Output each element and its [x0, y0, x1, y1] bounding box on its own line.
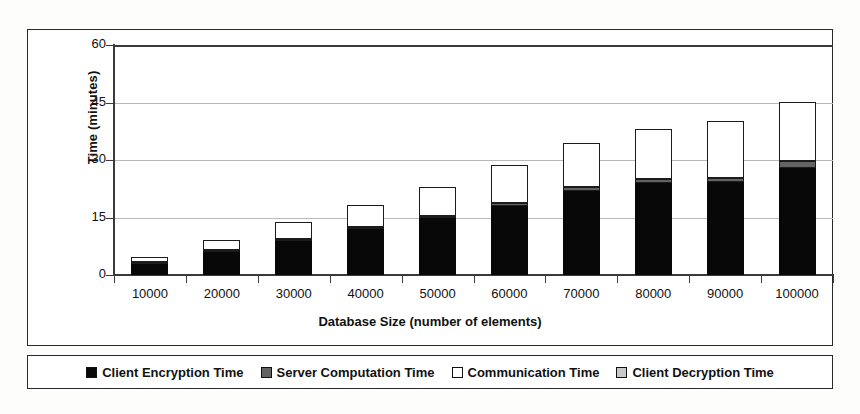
y-tick-mark-60	[106, 45, 113, 46]
legend-item-client-decryption-time[interactable]: Client Decryption Time	[616, 365, 773, 380]
bar-group-90000[interactable]	[707, 121, 744, 275]
x-axis-tick-labels: 1000020000300004000050000600007000080000…	[114, 286, 833, 306]
bar-segment-client-encryption-time-30000	[275, 241, 312, 275]
gray-square-icon	[261, 367, 272, 378]
x-tick-mark-8	[689, 276, 690, 283]
y-tick-label-15: 15	[62, 209, 106, 224]
chart-legend: Client Encryption TimeServer Computation…	[27, 355, 833, 389]
white-square-icon	[452, 367, 463, 378]
bar-segment-client-encryption-time-60000	[491, 206, 528, 275]
x-tick-label-10000: 10000	[112, 286, 188, 301]
y-tick-mark-30	[106, 160, 113, 161]
y-tick-label-60: 60	[62, 36, 106, 51]
bar-segment-client-encryption-time-100000	[779, 168, 816, 275]
x-tick-label-80000: 80000	[615, 286, 691, 301]
x-tick-label-20000: 20000	[184, 286, 260, 301]
light-gray-square-icon	[616, 367, 627, 378]
y-tick-mark-45	[106, 103, 113, 104]
bar-group-70000[interactable]	[563, 143, 600, 275]
bar-segment-communication-time-20000	[203, 240, 240, 250]
bar-group-10000[interactable]	[131, 257, 168, 275]
x-tick-mark-5	[474, 276, 475, 283]
x-tick-label-70000: 70000	[543, 286, 619, 301]
x-tick-mark-9	[761, 276, 762, 283]
bar-segment-communication-time-50000	[419, 187, 456, 216]
bar-segment-client-encryption-time-10000	[131, 264, 168, 275]
bar-segment-communication-time-70000	[563, 143, 600, 187]
bar-group-40000[interactable]	[347, 205, 384, 275]
bar-segment-communication-time-90000	[707, 121, 744, 178]
y-tick-mark-0	[106, 275, 113, 276]
bar-segment-client-encryption-time-50000	[419, 218, 456, 275]
bar-group-100000[interactable]	[779, 102, 816, 275]
x-tick-label-50000: 50000	[400, 286, 476, 301]
x-tick-mark-7	[617, 276, 618, 283]
x-tick-mark-4	[402, 276, 403, 283]
black-square-icon	[86, 367, 97, 378]
bar-segment-client-encryption-time-40000	[347, 229, 384, 275]
bar-segment-client-encryption-time-70000	[563, 191, 600, 275]
legend-label: Client Decryption Time	[632, 365, 773, 380]
x-tick-mark-3	[330, 276, 331, 283]
x-tick-mark-6	[545, 276, 546, 283]
bar-group-80000[interactable]	[635, 129, 672, 275]
legend-label: Communication Time	[468, 365, 600, 380]
x-tick-label-100000: 100000	[759, 286, 835, 301]
x-tick-label-40000: 40000	[328, 286, 404, 301]
y-tick-label-45: 45	[62, 94, 106, 109]
bar-segment-client-encryption-time-80000	[635, 183, 672, 275]
bar-segment-communication-time-100000	[779, 102, 816, 161]
x-tick-label-90000: 90000	[687, 286, 763, 301]
y-tick-mark-15	[106, 218, 113, 219]
legend-label: Client Encryption Time	[102, 365, 243, 380]
x-tick-mark-1	[186, 276, 187, 283]
bar-segment-communication-time-30000	[275, 222, 312, 238]
x-tick-label-60000: 60000	[471, 286, 547, 301]
bar-group-60000[interactable]	[491, 165, 528, 275]
bar-segment-client-encryption-time-90000	[707, 182, 744, 275]
bar-segment-communication-time-40000	[347, 205, 384, 227]
x-tick-mark-0	[114, 276, 115, 283]
bar-group-30000[interactable]	[275, 222, 312, 275]
bar-group-20000[interactable]	[203, 240, 240, 275]
y-tick-label-0: 0	[62, 266, 106, 281]
legend-item-communication-time[interactable]: Communication Time	[452, 365, 600, 380]
bar-series-area	[114, 45, 833, 275]
chart-page: Time (minutes) 604530150 100002000030000…	[0, 0, 860, 414]
bar-segment-communication-time-80000	[635, 129, 672, 179]
y-axis-tick-labels: 604530150	[42, 45, 106, 275]
legend-item-server-computation-time[interactable]: Server Computation Time	[261, 365, 435, 380]
legend-item-client-encryption-time[interactable]: Client Encryption Time	[86, 365, 243, 380]
x-tick-label-30000: 30000	[256, 286, 332, 301]
x-tick-mark-2	[258, 276, 259, 283]
bar-segment-communication-time-60000	[491, 165, 528, 204]
x-axis-title: Database Size (number of elements)	[27, 314, 833, 329]
bar-segment-client-encryption-time-20000	[203, 252, 240, 275]
x-tick-mark-10	[833, 276, 834, 283]
bar-group-50000[interactable]	[419, 187, 456, 275]
y-tick-label-30: 30	[62, 151, 106, 166]
bar-segment-server-computation-time-100000	[779, 161, 816, 168]
legend-label: Server Computation Time	[277, 365, 435, 380]
